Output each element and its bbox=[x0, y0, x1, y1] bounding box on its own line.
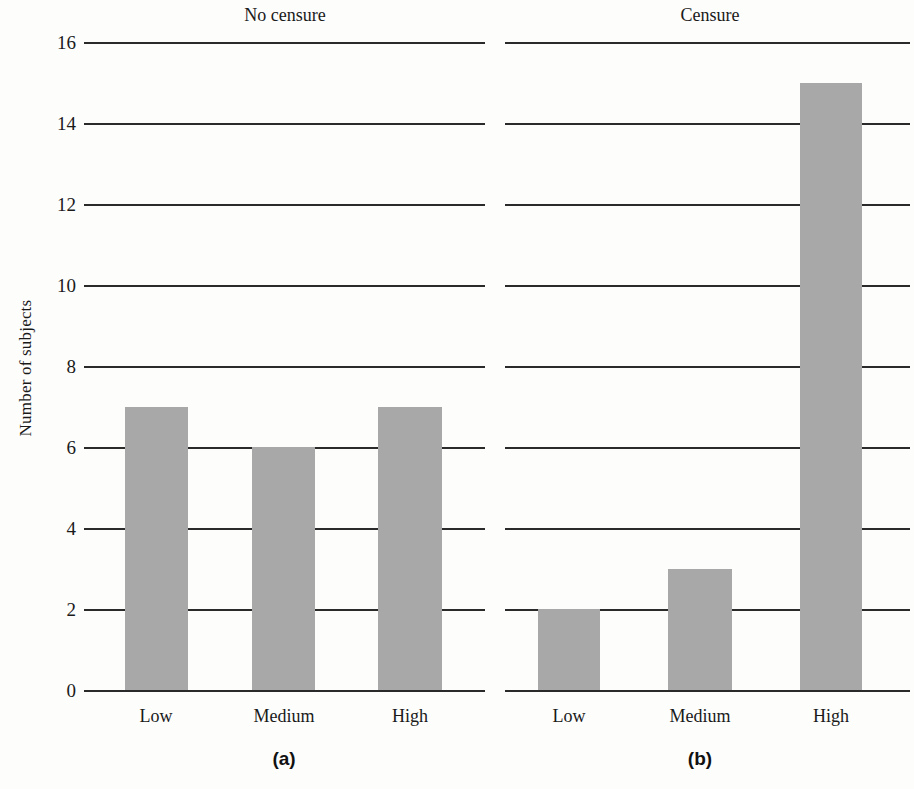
y-tick-label-14: 14 bbox=[40, 114, 76, 133]
gridline-a-8 bbox=[84, 366, 485, 368]
y-tick-label-12: 12 bbox=[40, 195, 76, 214]
y-tick-label-0: 0 bbox=[40, 681, 76, 700]
x-label-b-low: Low bbox=[509, 706, 629, 727]
x-label-b-medium: Medium bbox=[640, 706, 760, 727]
gridline-a-baseline-0 bbox=[84, 690, 485, 692]
gridline-a-14 bbox=[84, 123, 485, 125]
panel-b-caption: (b) bbox=[640, 748, 760, 770]
panel-b-title: Censure bbox=[610, 5, 810, 26]
panel-a-caption: (a) bbox=[224, 748, 344, 770]
x-label-a-low: Low bbox=[96, 706, 216, 727]
panel-a-title: No censure bbox=[185, 5, 385, 26]
figure-bar-chart-censure: Number of subjects 16 14 12 10 8 6 4 2 0… bbox=[0, 0, 914, 789]
y-tick-label-2: 2 bbox=[40, 600, 76, 619]
y-tick-label-16: 16 bbox=[40, 33, 76, 52]
bar-b-low[interactable] bbox=[538, 609, 600, 690]
gridline-b-16 bbox=[505, 42, 910, 44]
y-tick-label-4: 4 bbox=[40, 519, 76, 538]
gridline-a-16 bbox=[84, 42, 485, 44]
x-label-a-medium: Medium bbox=[224, 706, 344, 727]
gridline-a-12 bbox=[84, 204, 485, 206]
gridline-b-baseline-0 bbox=[505, 690, 910, 692]
x-label-b-high: High bbox=[771, 706, 891, 727]
y-tick-label-8: 8 bbox=[40, 357, 76, 376]
bar-a-medium[interactable] bbox=[252, 447, 315, 690]
bar-a-low[interactable] bbox=[125, 407, 188, 691]
y-tick-label-6: 6 bbox=[40, 438, 76, 457]
bar-a-high[interactable] bbox=[378, 407, 442, 691]
y-axis-title: Number of subjects bbox=[16, 258, 36, 478]
y-tick-label-10: 10 bbox=[40, 276, 76, 295]
bar-b-medium[interactable] bbox=[668, 569, 732, 691]
gridline-a-10 bbox=[84, 285, 485, 287]
x-label-a-high: High bbox=[350, 706, 470, 727]
bar-b-high[interactable] bbox=[800, 83, 862, 691]
